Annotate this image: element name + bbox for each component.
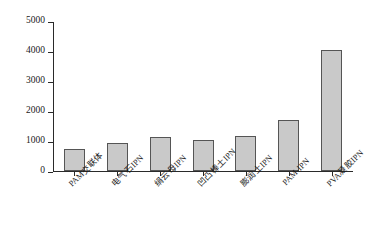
y-axis-tick: 4000 xyxy=(48,52,53,53)
y-axis-tick-label: 1000 xyxy=(26,135,45,145)
y-axis-tick: 3000 xyxy=(48,82,53,83)
y-axis-line xyxy=(53,22,54,172)
y-axis-tick: 1000 xyxy=(48,142,53,143)
bar-chart-figure: 储能模量G'/Pa 010002000300040005000 PAM交联体电气… xyxy=(0,0,372,240)
bar xyxy=(321,50,342,171)
y-axis-tick: 0 xyxy=(48,172,53,173)
y-axis-tick-label: 3000 xyxy=(26,75,45,85)
y-axis-tick-label: 4000 xyxy=(26,45,45,55)
y-axis-tick-label: 0 xyxy=(40,165,45,175)
y-axis-tick-label: 2000 xyxy=(26,105,45,115)
y-axis-tick-label: 5000 xyxy=(26,15,45,25)
y-axis-tick: 2000 xyxy=(48,112,53,113)
y-axis-tick: 5000 xyxy=(48,22,53,23)
